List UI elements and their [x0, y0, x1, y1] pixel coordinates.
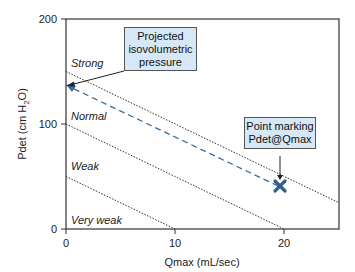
x-tick-label-20: 20 — [278, 237, 290, 249]
y-axis-label: Pdet (cm H2O) — [16, 88, 31, 160]
point-marking-callout: Point marking Pdet@Qmax — [244, 117, 316, 149]
x-tick-label-0: 0 — [63, 237, 69, 249]
zone-label-weak: Weak — [71, 160, 99, 172]
y-tick-label-200: 200 — [39, 13, 57, 25]
point-callout-arrowhead — [277, 175, 283, 180]
zone-label-strong: Strong — [71, 57, 104, 69]
projected-callout-arrow — [70, 71, 124, 85]
callout-line: Projected — [125, 30, 196, 43]
callout-line: Point marking — [245, 120, 315, 133]
zone-label-very-weak: Very weak — [71, 214, 122, 226]
zone-label-normal: Normal — [71, 110, 107, 122]
y-tick-label-0: 0 — [51, 223, 57, 235]
callout-line: isovolumetric — [125, 43, 196, 56]
x-tick-label-10: 10 — [169, 237, 181, 249]
y-tick-label-100: 100 — [39, 118, 57, 130]
projected-pressure-callout: Projected isovolumetric pressure — [124, 27, 197, 71]
callout-line: pressure — [125, 56, 196, 69]
projected-callout-arrowhead — [66, 82, 75, 87]
x-axis-label: Qmax (mL/sec) — [164, 256, 239, 268]
callout-line: Pdet@Qmax — [245, 133, 315, 146]
